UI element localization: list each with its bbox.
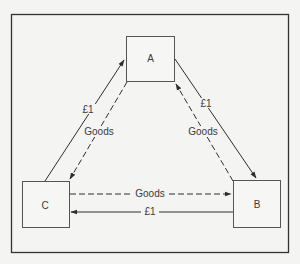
diagram-canvas: A B C £1 Goods £1 Goods Goods [0, 0, 300, 264]
node-c-label: C [41, 200, 48, 211]
node-a: A [127, 37, 175, 82]
flow-c-to-b-goods: Goods [70, 188, 231, 199]
flow-b-to-a-label: Goods [188, 126, 217, 137]
flow-c-to-b-label: Goods [135, 188, 164, 199]
flow-a-to-b-money: £1 [175, 59, 256, 178]
node-a-label: A [147, 53, 154, 64]
flow-a-to-b-label: £1 [200, 98, 212, 109]
flow-a-to-c-label: Goods [84, 126, 113, 137]
flow-c-to-a-money: £1 [45, 60, 124, 181]
flow-b-to-c-money: £1 [71, 206, 233, 217]
node-c: C [23, 182, 70, 228]
flow-c-to-a-label: £1 [82, 104, 94, 115]
node-b-label: B [254, 199, 261, 210]
flow-b-to-c-label: £1 [144, 206, 156, 217]
node-b: B [234, 181, 281, 228]
